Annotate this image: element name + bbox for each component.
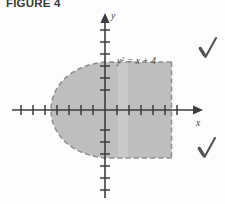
coordinate-plot: y2= x + 4 x y xyxy=(0,0,225,204)
x-axis-label: x xyxy=(195,118,201,128)
y-axis-label: y xyxy=(110,11,116,21)
equation-rest: = x + 4 xyxy=(127,56,156,66)
equation-exponent: 2 xyxy=(121,55,125,62)
checkmark-lower-icon xyxy=(199,138,215,157)
checkmark-upper-icon xyxy=(200,38,216,57)
figure-container: FIGURE 4 xyxy=(0,0,225,204)
